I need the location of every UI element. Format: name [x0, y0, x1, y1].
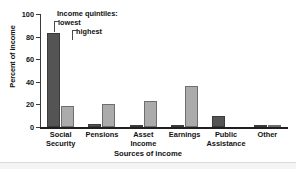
y-axis-title: Percent of income — [8, 7, 17, 107]
x-axis-line — [40, 127, 288, 129]
y-tick-label: 80 — [26, 32, 34, 41]
bar-group — [123, 14, 164, 127]
legend-label-highest: highest — [76, 27, 102, 36]
bar-lowest — [47, 33, 60, 127]
y-tick-label: 60 — [26, 55, 34, 64]
y-tick-label: 100 — [22, 10, 34, 19]
x-category-label: Asset Income — [123, 131, 164, 148]
bottom-margin-fill — [0, 163, 296, 169]
bar-lowest — [130, 125, 143, 127]
legend-leader-line-highest — [72, 30, 77, 40]
bar-highest — [144, 101, 157, 127]
legend-leader-line-lowest — [54, 21, 59, 32]
bar-highest — [102, 104, 115, 127]
bar-group — [164, 14, 205, 127]
x-category-label: Other — [247, 131, 288, 140]
bar-lowest — [212, 116, 225, 127]
bar-lowest — [254, 125, 267, 127]
y-tick — [36, 127, 40, 128]
bar-lowest — [171, 125, 184, 127]
bar-group — [247, 14, 288, 127]
x-category-label: Earnings — [164, 131, 205, 140]
legend-title: Income quintiles: — [57, 9, 118, 18]
x-axis-title: Sources of income — [0, 149, 296, 158]
y-tick-label: 0 — [30, 123, 34, 132]
y-tick-label: 20 — [26, 100, 34, 109]
x-category-label: Pensions — [81, 131, 122, 140]
bar-lowest — [88, 124, 101, 127]
bar-highest — [268, 125, 281, 127]
bar-highest — [185, 86, 198, 127]
y-tick-label: 40 — [26, 77, 34, 86]
legend-label-lowest: lowest — [58, 18, 81, 27]
bar-highest — [61, 106, 74, 127]
bar-chart: Percent of income 020406080100 Social Se… — [0, 0, 296, 169]
x-category-label: Public Assistance — [205, 131, 246, 148]
bar-group — [205, 14, 246, 127]
x-category-label: Social Security — [40, 131, 81, 148]
